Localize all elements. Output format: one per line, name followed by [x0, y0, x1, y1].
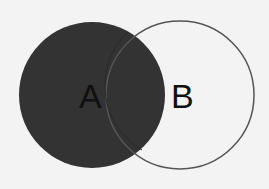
venn-diagram: A B: [0, 0, 269, 189]
set-b-label: B: [171, 77, 194, 115]
set-a-label: A: [79, 77, 102, 115]
